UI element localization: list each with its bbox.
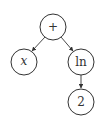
expression-tree-diagram: + x ln 2 — [0, 0, 108, 124]
node-ln-label: ln — [75, 55, 87, 69]
edge-plus-to-x — [32, 37, 45, 51]
edge-plus-to-ln — [61, 37, 73, 51]
node-plus-label: + — [48, 20, 58, 34]
node-two-label: 2 — [77, 95, 85, 109]
node-ln: ln — [68, 49, 94, 75]
node-x-label: x — [21, 54, 28, 68]
node-two: 2 — [68, 89, 94, 115]
node-x: x — [11, 49, 37, 75]
node-plus: + — [40, 14, 66, 40]
